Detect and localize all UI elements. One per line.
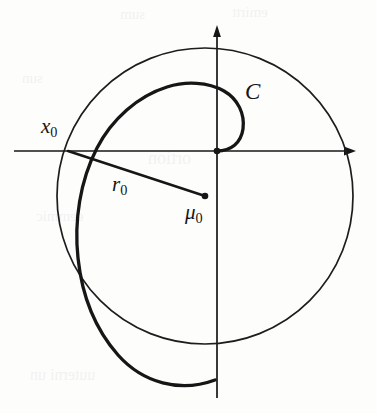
label-x0-subscript: 0 — [50, 124, 57, 140]
label-curve-C: C — [245, 80, 260, 103]
radius-segment-r0 — [68, 151, 205, 196]
label-x0: x0 — [41, 116, 57, 139]
label-r0: r0 — [112, 174, 127, 197]
label-r0-subscript: 0 — [120, 182, 127, 198]
spiral-curve-C — [77, 83, 244, 385]
label-mu0-base: μ — [185, 200, 196, 224]
vertical-axis-arrowhead — [213, 25, 221, 37]
figure-container: sum emirtt sun ortion eemmic uuterni un … — [0, 0, 377, 413]
origin-point — [214, 148, 221, 155]
label-r0-base: r — [112, 172, 120, 196]
center-point-mu0 — [202, 193, 209, 200]
label-mu0: μ0 — [185, 202, 203, 225]
label-mu0-subscript: 0 — [196, 210, 203, 226]
label-C-base: C — [245, 79, 260, 104]
label-x0-base: x — [41, 114, 50, 138]
vertical-axis — [213, 25, 221, 398]
